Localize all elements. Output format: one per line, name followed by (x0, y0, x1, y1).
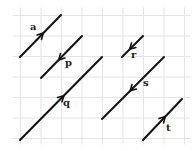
vector-label: p (65, 57, 72, 68)
vector-diagram: apqrst (0, 0, 195, 151)
vector-label: t (166, 122, 171, 133)
vector-label: q (63, 97, 70, 108)
vector-label: a (30, 21, 37, 32)
vector-t: t (143, 99, 182, 140)
vector-label: r (131, 49, 137, 60)
vector-line (102, 57, 164, 119)
vector-s: s (102, 57, 164, 119)
vector-line (143, 99, 182, 140)
vector-label: s (143, 77, 149, 88)
grid (13, 8, 191, 145)
